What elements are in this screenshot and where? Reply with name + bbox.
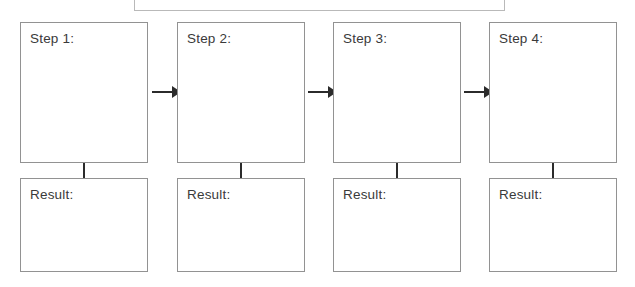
arrow-shaft-2 [308, 91, 330, 93]
arrow-shaft-1 [152, 91, 174, 93]
connector-step-result-3 [396, 163, 398, 178]
step-label-3: Step 3: [343, 31, 387, 46]
result-box-2[interactable]: Result: [177, 178, 305, 272]
result-box-3[interactable]: Result: [333, 178, 461, 272]
title-bar-box [134, 0, 505, 11]
connector-step-result-1 [83, 163, 85, 178]
step-label-4: Step 4: [499, 31, 543, 46]
step-box-3[interactable]: Step 3: [333, 22, 461, 163]
result-box-4[interactable]: Result: [489, 178, 617, 272]
step-label-1: Step 1: [30, 31, 74, 46]
result-label-4: Result: [499, 187, 542, 202]
step-box-1[interactable]: Step 1: [20, 22, 148, 163]
step-box-4[interactable]: Step 4: [489, 22, 617, 163]
connector-step-result-4 [552, 163, 554, 178]
step-box-2[interactable]: Step 2: [177, 22, 305, 163]
arrow-shaft-3 [464, 91, 486, 93]
result-label-1: Result: [30, 187, 73, 202]
step-label-2: Step 2: [187, 31, 231, 46]
result-box-1[interactable]: Result: [20, 178, 148, 272]
result-label-3: Result: [343, 187, 386, 202]
diagram-canvas: Step 1: Result: Step 2: Result: Step 3: … [0, 0, 635, 287]
connector-step-result-2 [240, 163, 242, 178]
result-label-2: Result: [187, 187, 230, 202]
